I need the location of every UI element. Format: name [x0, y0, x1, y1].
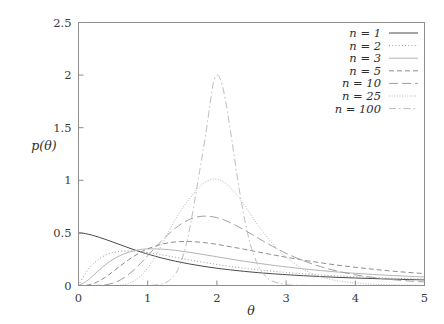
x-axis-title: θ [247, 303, 255, 318]
chart-figure: 012345 00.511.522.5 θ p(θ) n = 1n = 2n =… [0, 0, 444, 324]
x-tick-label: 1 [144, 291, 151, 305]
x-tick-label: 4 [352, 291, 359, 305]
x-tick-label: 2 [213, 291, 220, 305]
legend: n = 1n = 2n = 3n = 5n = 10n = 25n = 100 [335, 26, 418, 116]
curve-n-2 [79, 251, 425, 286]
y-tick-label: 0 [64, 279, 71, 293]
y-tick-label: 1 [64, 173, 71, 187]
y-tick-label: 2 [64, 68, 71, 82]
y-tick-label: 2.5 [53, 16, 71, 30]
y-tick-label: 1.5 [53, 121, 71, 135]
x-tick-label: 0 [75, 291, 82, 305]
curve-n-3 [79, 249, 425, 286]
x-tick-label: 5 [421, 291, 428, 305]
plot-canvas: 012345 00.511.522.5 θ p(θ) n = 1n = 2n =… [0, 0, 444, 324]
y-axis-title: p(θ) [31, 138, 56, 153]
x-axis-ticks: 012345 [75, 281, 428, 305]
x-tick-label: 3 [282, 291, 289, 305]
y-tick-label: 0.5 [53, 226, 71, 240]
legend-label-n-100: n = 100 [335, 102, 381, 116]
